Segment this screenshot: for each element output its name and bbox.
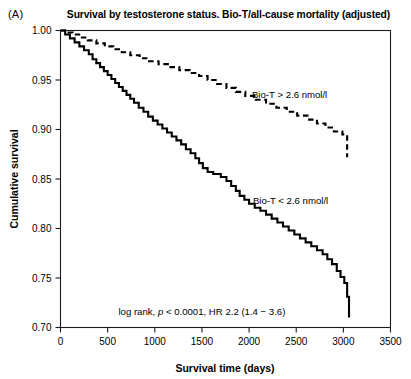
y-tick-label: 0.90 [32,124,52,135]
x-axis-title: Survival time (days) [175,362,274,374]
chart-annotations: log rank, p < 0.0001, HR 2.2 (1.4 − 3.6) [118,306,285,317]
x-tick-label: 500 [99,336,116,347]
x-tick-label: 0 [58,336,64,347]
x-tick-label: 3500 [379,336,402,347]
curve-label-high-bio-t: Bio-T > 2.6 nmol/l [252,89,327,100]
y-axis-ticks: 0.700.750.800.850.900.951.00 [32,25,60,333]
y-tick-label: 0.75 [32,273,52,284]
survival-chart-figure: (A) Survival by testosterone status. Bio… [0,0,411,379]
x-axis-ticks: 0500100015002000250030003500 [58,328,402,347]
log-rank-statistics: log rank, p < 0.0001, HR 2.2 (1.4 − 3.6) [118,306,285,317]
kaplan-meier-plot: 0500100015002000250030003500 0.700.750.8… [0,0,411,379]
x-tick-label: 1000 [144,336,167,347]
x-tick-label: 2000 [238,336,261,347]
x-tick-label: 1500 [191,336,214,347]
x-tick-label: 2500 [285,336,308,347]
curve-label-low-bio-t: Bio-T < 2.6 nmol/l [253,195,328,206]
survival-curve-low-bio-t [61,31,350,318]
y-tick-label: 1.00 [32,25,52,36]
y-tick-label: 0.70 [32,322,52,333]
y-axis-title: Cumulative survival [8,129,20,228]
y-tick-label: 0.80 [32,223,52,234]
curve-labels: Bio-T > 2.6 nmol/lBio-T < 2.6 nmol/l [252,89,328,206]
y-tick-label: 0.95 [32,75,52,86]
x-tick-label: 3000 [332,336,355,347]
y-tick-label: 0.85 [32,174,52,185]
survival-curves [61,31,350,318]
